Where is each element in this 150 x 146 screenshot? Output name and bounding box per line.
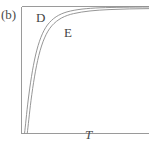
- curve-label-e: E: [64, 26, 72, 39]
- curve-d: [25, 7, 149, 133]
- curve-label-d: D: [36, 11, 45, 24]
- panel-label: (b): [1, 8, 16, 21]
- plot-area: [0, 0, 149, 146]
- figure-panel: (b) D E T: [0, 0, 149, 146]
- x-axis-label: T: [85, 128, 92, 141]
- axis-frame: [22, 7, 150, 134]
